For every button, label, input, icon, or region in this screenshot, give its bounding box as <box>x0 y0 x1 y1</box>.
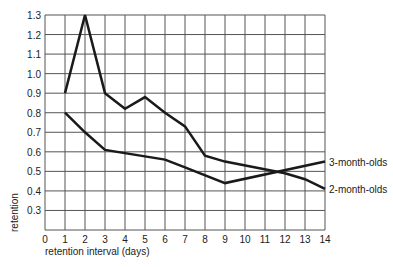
x-tick-label: 8 <box>202 234 208 245</box>
series-label: 2-month-olds <box>329 184 387 195</box>
x-tick-label: 6 <box>162 234 168 245</box>
y-axis-label: retention <box>9 193 20 232</box>
y-tick-label: 0.5 <box>27 166 41 177</box>
y-tick-label: 0.9 <box>27 88 41 99</box>
x-tick-label: 3 <box>102 234 108 245</box>
data-lines <box>65 15 325 189</box>
x-tick-label: 1 <box>62 234 68 245</box>
retention-line-chart: 0.30.40.50.60.70.80.91.01.11.21.3 012345… <box>0 0 393 267</box>
x-tick-label: 13 <box>299 234 311 245</box>
y-tick-label: 0.6 <box>27 147 41 158</box>
y-tick-label: 0.4 <box>27 186 41 197</box>
y-axis-ticks: 0.30.40.50.60.70.80.91.01.11.21.3 <box>27 10 41 216</box>
x-tick-label: 11 <box>260 234 271 245</box>
x-tick-label: 9 <box>222 234 228 245</box>
y-tick-label: 0.7 <box>27 127 41 138</box>
chart-grid <box>45 15 325 230</box>
x-axis-label: retention interval (days) <box>45 246 150 257</box>
y-tick-label: 1.0 <box>27 69 41 80</box>
x-tick-label: 10 <box>239 234 251 245</box>
series-line <box>65 15 325 189</box>
y-tick-label: 0.8 <box>27 108 41 119</box>
series-label: 3-month-olds <box>329 157 387 168</box>
series-labels: 2-month-olds3-month-olds <box>329 157 387 195</box>
x-tick-label: 5 <box>142 234 148 245</box>
x-tick-label: 4 <box>122 234 128 245</box>
x-tick-label: 12 <box>279 234 291 245</box>
y-tick-label: 1.2 <box>27 30 41 41</box>
x-tick-label: 2 <box>82 234 88 245</box>
x-tick-label: 0 <box>42 234 48 245</box>
x-tick-label: 14 <box>319 234 331 245</box>
y-tick-label: 1.1 <box>27 49 41 60</box>
x-axis-ticks: 01234567891011121314 <box>42 234 331 245</box>
y-tick-label: 0.3 <box>27 205 41 216</box>
x-tick-label: 7 <box>182 234 188 245</box>
y-tick-label: 1.3 <box>27 10 41 21</box>
